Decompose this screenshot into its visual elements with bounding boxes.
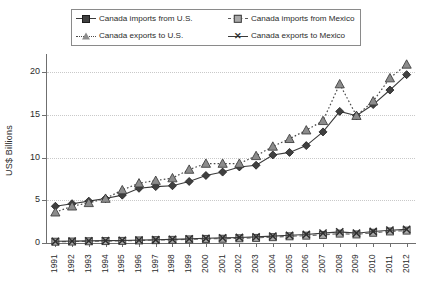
data-point	[268, 142, 277, 150]
data-point	[168, 182, 176, 190]
data-point	[185, 165, 194, 173]
data-point	[219, 168, 227, 176]
data-point	[185, 177, 193, 185]
data-point	[51, 208, 60, 216]
data-point	[235, 159, 244, 167]
data-point	[370, 229, 377, 236]
data-point	[286, 148, 294, 156]
series-layer	[0, 0, 432, 290]
data-point	[318, 116, 327, 124]
data-point	[285, 134, 294, 142]
data-point	[251, 151, 260, 159]
data-point	[201, 159, 210, 167]
data-point	[168, 173, 177, 181]
data-point	[151, 176, 160, 184]
series-triangle	[51, 60, 411, 216]
series-diamond	[51, 71, 410, 211]
data-point	[118, 185, 127, 193]
data-point	[335, 79, 344, 87]
data-point	[353, 231, 360, 238]
data-point	[202, 171, 210, 179]
data-point	[402, 60, 411, 68]
series-square	[52, 227, 410, 245]
chart-svg	[0, 0, 432, 290]
data-point	[386, 228, 393, 235]
series-line	[55, 75, 406, 207]
data-point	[302, 126, 311, 134]
data-point	[369, 97, 378, 105]
data-point	[269, 151, 277, 159]
data-point	[303, 232, 310, 239]
chart-figure: Canada imports from U.S. Canada imports …	[0, 0, 432, 290]
series-line	[55, 64, 406, 212]
data-point	[252, 161, 260, 169]
data-point	[403, 227, 410, 234]
